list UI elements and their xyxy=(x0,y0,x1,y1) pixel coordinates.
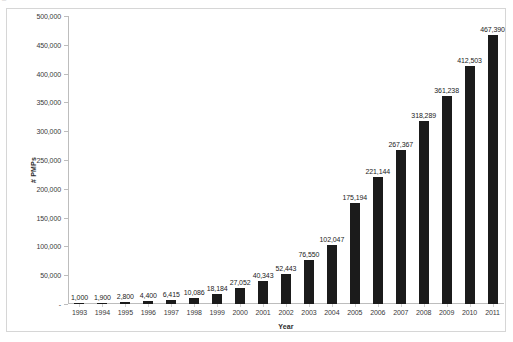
x-axis-category-label: 1997 xyxy=(164,309,179,316)
bar[interactable] xyxy=(258,281,268,304)
x-axis-tick xyxy=(194,304,195,307)
x-axis-tick xyxy=(424,304,425,307)
x-axis-category-label: 1998 xyxy=(187,309,202,316)
y-axis-tick-label: 350,000 xyxy=(36,99,61,106)
x-axis-tick xyxy=(309,304,310,307)
bar[interactable] xyxy=(442,96,452,304)
bar[interactable] xyxy=(488,35,498,304)
y-axis-tick-label: 100,000 xyxy=(36,243,61,250)
bar[interactable] xyxy=(281,274,291,304)
x-axis-title: Year xyxy=(68,323,504,330)
bar[interactable] xyxy=(350,203,360,304)
bar-value-label: 175,194 xyxy=(343,194,368,201)
bar-value-label: 318,289 xyxy=(411,112,436,119)
x-axis-tick xyxy=(286,304,287,307)
bar-value-label: 52,443 xyxy=(276,265,297,272)
y-axis-tick-label: 450,000 xyxy=(36,41,61,48)
x-axis-category-label: 2005 xyxy=(347,309,362,316)
chart-container: # PMPs Year -50,000100,000150,000200,000… xyxy=(6,8,506,332)
x-axis-tick xyxy=(378,304,379,307)
scan-artifact-fragment: ــ ▪ ▪ xyxy=(2,0,15,3)
bar-value-label: 467,390 xyxy=(480,26,505,33)
x-axis-category-label: 2003 xyxy=(301,309,316,316)
bar-group: 267,3672007 xyxy=(389,16,412,304)
x-axis-category-label: 2010 xyxy=(462,309,477,316)
bar[interactable] xyxy=(235,288,245,304)
bar[interactable] xyxy=(396,150,406,304)
x-axis-tick xyxy=(240,304,241,307)
x-axis-tick xyxy=(148,304,149,307)
x-axis-category-label: 2002 xyxy=(278,309,293,316)
y-axis-tick-label: 500,000 xyxy=(36,13,61,20)
x-axis-tick xyxy=(470,304,471,307)
x-axis-category-label: 2008 xyxy=(416,309,431,316)
x-axis-category-label: 2000 xyxy=(233,309,248,316)
plot-area: -50,000100,000150,000200,000250,000300,0… xyxy=(68,16,504,304)
y-axis-tick-label: 400,000 xyxy=(36,70,61,77)
bar[interactable] xyxy=(304,260,314,304)
bar-value-label: 6,415 xyxy=(163,291,180,298)
x-axis-tick xyxy=(125,304,126,307)
x-axis-category-label: 1993 xyxy=(72,309,87,316)
y-axis-tick-label: 300,000 xyxy=(36,128,61,135)
x-axis-category-label: 1995 xyxy=(118,309,133,316)
y-axis-tick-label: - xyxy=(59,301,61,308)
bar-group: 18,1841999 xyxy=(206,16,229,304)
bar-group: 467,3902011 xyxy=(481,16,504,304)
bar-value-label: 2,800 xyxy=(117,293,134,300)
bar-value-label: 102,047 xyxy=(320,236,345,243)
x-axis-tick xyxy=(79,304,80,307)
y-axis-tick-label: 250,000 xyxy=(36,157,61,164)
bar-value-label: 27,052 xyxy=(230,279,251,286)
x-axis-category-label: 2001 xyxy=(255,309,270,316)
bar[interactable] xyxy=(212,294,222,304)
bar-value-label: 267,367 xyxy=(388,141,413,148)
bar-value-label: 10,086 xyxy=(184,289,205,296)
bar-value-label: 361,238 xyxy=(434,87,459,94)
bar-group: 318,2892008 xyxy=(412,16,435,304)
bar[interactable] xyxy=(419,121,429,304)
bar-group: 175,1942005 xyxy=(343,16,366,304)
bar-group: 2,8001995 xyxy=(114,16,137,304)
y-axis-tick-label: 150,000 xyxy=(36,214,61,221)
y-axis-tick xyxy=(64,304,68,305)
bar-value-label: 1,900 xyxy=(94,294,111,301)
x-axis-category-label: 1994 xyxy=(95,309,110,316)
x-axis-tick xyxy=(263,304,264,307)
y-axis-tick-label: 200,000 xyxy=(36,185,61,192)
bar-group: 40,3432001 xyxy=(252,16,275,304)
y-axis-tick-label: 50,000 xyxy=(40,272,61,279)
bar-group: 27,0522000 xyxy=(229,16,252,304)
bar-group: 76,5502003 xyxy=(297,16,320,304)
x-axis-category-label: 2006 xyxy=(370,309,385,316)
bar-value-label: 221,144 xyxy=(365,168,390,175)
bar-group: 1,9001994 xyxy=(91,16,114,304)
bar[interactable] xyxy=(327,245,337,304)
x-axis-category-label: 2004 xyxy=(324,309,339,316)
x-axis-tick xyxy=(401,304,402,307)
bar-group: 6,4151997 xyxy=(160,16,183,304)
x-axis-tick xyxy=(102,304,103,307)
x-axis-category-label: 2009 xyxy=(439,309,454,316)
bar-value-label: 412,503 xyxy=(457,57,482,64)
x-axis-tick xyxy=(447,304,448,307)
bar-group: 4,4001996 xyxy=(137,16,160,304)
bar-group: 412,5032010 xyxy=(458,16,481,304)
x-axis-tick xyxy=(332,304,333,307)
bar-group: 52,4432002 xyxy=(275,16,298,304)
bar-value-label: 18,184 xyxy=(207,285,228,292)
x-axis-category-label: 1996 xyxy=(141,309,156,316)
bar-value-label: 1,000 xyxy=(71,294,88,301)
bar-value-label: 76,550 xyxy=(299,251,320,258)
x-axis-tick xyxy=(355,304,356,307)
x-axis-tick xyxy=(493,304,494,307)
bar-group: 1,0001993 xyxy=(68,16,91,304)
x-axis-category-label: 2007 xyxy=(393,309,408,316)
bar-value-label: 40,343 xyxy=(253,272,274,279)
bar-group: 102,0472004 xyxy=(320,16,343,304)
x-axis-tick xyxy=(171,304,172,307)
bar-value-label: 4,400 xyxy=(140,292,157,299)
bar-group: 10,0861998 xyxy=(183,16,206,304)
bar[interactable] xyxy=(465,66,475,304)
bar[interactable] xyxy=(373,177,383,304)
